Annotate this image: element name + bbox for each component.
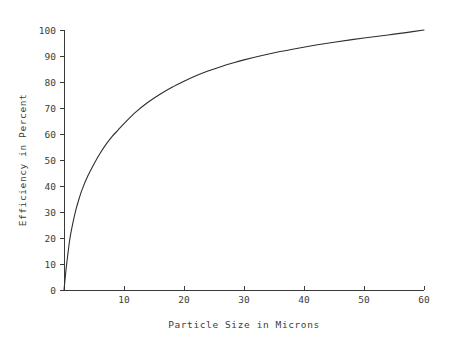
chart-page: 0102030405060708090100 102030405060 Part… — [0, 0, 449, 340]
y-tick-label: 40 — [45, 181, 57, 192]
y-tick-label: 50 — [45, 155, 57, 166]
y-tick-label: 90 — [45, 51, 57, 62]
x-tick-label: 20 — [178, 294, 190, 305]
x-axis-title: Particle Size in Microns — [168, 319, 320, 330]
chart-background — [0, 0, 449, 340]
x-tick-label: 50 — [358, 294, 370, 305]
x-tick-label: 60 — [418, 294, 430, 305]
y-tick-label: 60 — [45, 129, 57, 140]
x-tick-label: 40 — [298, 294, 310, 305]
y-axis-title: Efficiency in Percent — [17, 94, 28, 227]
y-tick-label: 80 — [45, 77, 57, 88]
y-tick-label: 10 — [45, 259, 57, 270]
efficiency-vs-particle-size-chart: 0102030405060708090100 102030405060 Part… — [0, 0, 449, 340]
x-tick-label: 30 — [238, 294, 250, 305]
y-tick-label: 0 — [50, 285, 56, 296]
y-tick-label: 30 — [45, 207, 57, 218]
x-tick-label: 10 — [118, 294, 130, 305]
y-tick-label: 100 — [39, 25, 56, 36]
y-tick-label: 20 — [45, 233, 57, 244]
y-tick-label: 70 — [45, 103, 57, 114]
